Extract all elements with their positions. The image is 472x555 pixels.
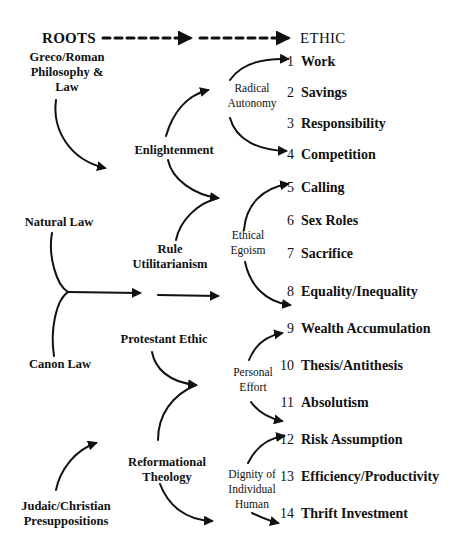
arrow-effort-to-absolutism	[251, 402, 282, 421]
ethic-item: 10Thesis/Antithesis	[280, 358, 403, 374]
arrow-rule-util-to-egoism	[158, 295, 218, 296]
ethic-header: ETHIC	[300, 30, 346, 47]
arrow-enlightenment-down	[168, 160, 218, 198]
ethic-item: 3Responsibility	[280, 116, 386, 132]
root-judaic-christian: Judaic/Christian Presuppositions	[20, 499, 112, 529]
ethic-item: 11Absolutism	[280, 395, 369, 411]
roots-header: ROOTS	[42, 30, 96, 47]
ethic-item: 8Equality/Inequality	[280, 284, 418, 300]
root-canon-law: Canon Law	[28, 357, 92, 372]
arrow-enlightenment-to-radical-autonomy	[166, 90, 208, 136]
ethic-item: 12Risk Assumption	[280, 432, 403, 448]
arrow-reformational-down	[160, 484, 212, 521]
node-personal-effort: Personal Effort	[228, 365, 278, 395]
ethic-item: 5Calling	[280, 180, 345, 196]
root-natural-law: Natural Law	[24, 215, 94, 230]
node-dignity-of-individual-human: Dignity of Individual Human	[224, 467, 280, 512]
node-reformational-theology: Reformational Theology	[126, 455, 208, 485]
root-greco-roman: Greco/Roman Philosophy & Law	[28, 50, 106, 95]
arrow-dignity-to-thrift	[252, 513, 278, 523]
arrow-protestant-down	[152, 352, 196, 385]
ethic-item: 9Wealth Accumulation	[280, 321, 431, 337]
node-enlightenment: Enlightenment	[134, 143, 214, 158]
node-rule-utilitarianism: Rule Utilitarianism	[130, 242, 210, 272]
node-ethical-egoism: Ethical Egoism	[226, 228, 270, 258]
arrow-natural-law-curve	[51, 233, 68, 292]
node-protestant-ethic: Protestant Ethic	[118, 332, 210, 347]
ethic-item: 13Efficiency/Productivity	[280, 469, 439, 485]
node-radical-autonomy: Radical Autonomy	[222, 81, 282, 111]
ethic-item: 14Thrift Investment	[280, 506, 408, 522]
arrow-judaic-up	[56, 443, 96, 490]
ethic-item: 7Sacrifice	[280, 246, 353, 262]
arrow-fork-to-rule-util	[68, 292, 140, 293]
ethic-item: 2Savings	[280, 85, 347, 101]
ethic-item: 4Competition	[280, 147, 376, 163]
arrow-reformational-up	[158, 385, 196, 440]
ethic-item: 1Work	[280, 54, 335, 70]
arrow-canon-law-curve	[53, 292, 68, 356]
arrow-radical-to-competition	[230, 118, 286, 151]
arrow-dignity-to-risk	[248, 436, 284, 463]
arrow-greco-to-enlightenment	[55, 100, 105, 168]
arrow-rule-util-up	[176, 198, 218, 240]
arrow-effort-to-wealth	[249, 333, 282, 360]
ethic-item: 6Sex Roles	[280, 213, 358, 229]
